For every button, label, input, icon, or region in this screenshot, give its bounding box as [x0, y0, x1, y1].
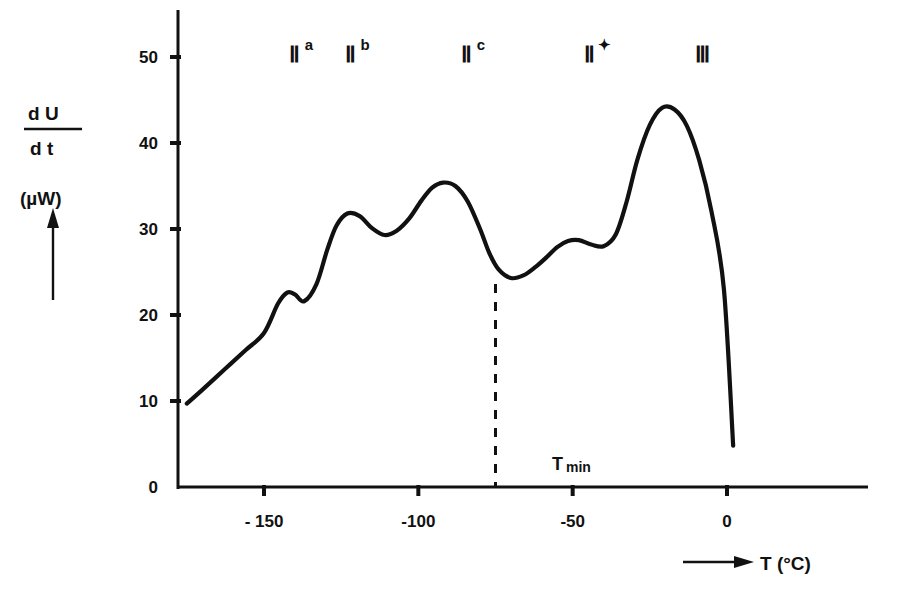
- chart-figure: 01020304050 - 150-100-500 T min ⅡaⅡbⅡcⅡ✦…: [0, 0, 899, 599]
- peak-annotation-labels: ⅡaⅡbⅡcⅡ✦Ⅲ: [289, 36, 711, 67]
- y-axis-up-arrow-icon: [47, 208, 59, 300]
- peak-label-base: Ⅱ: [345, 42, 357, 67]
- y-axis-title-denominator: d t: [30, 138, 54, 159]
- x-axis-tick-label: -50: [560, 512, 585, 531]
- x-axis-tick-label: - 150: [245, 512, 284, 531]
- peak-label-superscript: b: [360, 36, 369, 53]
- peak-label-superscript: a: [305, 36, 314, 53]
- x-axis-title-group: T (°C): [683, 553, 811, 574]
- peak-label-ii-star: Ⅱ✦: [584, 36, 610, 67]
- y-axis-tick-label: 40: [139, 134, 158, 153]
- y-axis-tick-labels: 01020304050: [139, 48, 158, 497]
- peak-label-base: Ⅱ: [461, 42, 473, 67]
- peak-label-iii: Ⅲ: [695, 42, 711, 67]
- x-axis-title-label: T (°C): [760, 553, 811, 574]
- peak-label-base: Ⅱ: [289, 42, 301, 67]
- peak-label-ii-c: Ⅱc: [461, 36, 485, 67]
- peak-label-base: Ⅲ: [695, 42, 711, 67]
- peak-label-superscript: c: [477, 36, 485, 53]
- tmin-label-main: T: [552, 454, 563, 474]
- peak-label-base: Ⅱ: [584, 42, 596, 67]
- y-axis-tick-label: 30: [139, 220, 158, 239]
- y-axis-units: (µW): [20, 188, 62, 209]
- tmin-label-sub: min: [566, 459, 591, 475]
- peak-label-superscript: ✦: [598, 36, 611, 53]
- x-axis-tick-label: -100: [401, 512, 435, 531]
- y-axis-tick-label: 10: [139, 392, 158, 411]
- y-axis-title-group: d U d t (µW): [20, 103, 82, 300]
- y-axis-tick-label: 20: [139, 306, 158, 325]
- y-axis-tick-label: 50: [139, 48, 158, 67]
- peak-label-ii-b: Ⅱb: [345, 36, 369, 67]
- x-axis-tick-labels: - 150-100-500: [245, 512, 732, 531]
- data-series-curve: [187, 106, 733, 445]
- tmin-label-group: T min: [552, 454, 591, 475]
- y-axis-title-numerator: d U: [28, 103, 59, 124]
- x-axis-tick-label: 0: [722, 512, 731, 531]
- y-axis-tick-label: 0: [149, 478, 158, 497]
- peak-label-ii-a: Ⅱa: [289, 36, 314, 67]
- x-axis-right-arrow-icon: [683, 556, 754, 568]
